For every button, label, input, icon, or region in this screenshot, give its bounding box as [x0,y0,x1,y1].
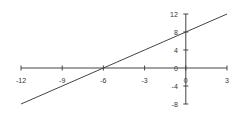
y-tick-label: 0 [174,65,178,72]
line-chart: -12-9-6-30312840-4-8 [0,0,241,117]
x-tick-label: -9 [59,77,65,84]
x-tick-label: -12 [16,77,26,84]
y-tick-label: 4 [174,47,178,54]
x-tick-label: -3 [141,77,147,84]
data-line [21,14,227,104]
y-tick-label: 12 [170,11,178,18]
x-tick-label: 0 [184,77,188,84]
y-tick-label: 8 [174,29,178,36]
y-tick-label: -8 [172,101,178,108]
x-tick-label: -6 [100,77,106,84]
x-tick-label: 3 [225,77,229,84]
tick-labels: -12-9-6-30312840-4-8 [16,11,229,108]
y-tick-label: -4 [172,83,178,90]
